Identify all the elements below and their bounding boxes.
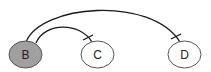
edge-b-to-c (36, 27, 92, 43)
node-b[interactable]: B (9, 41, 42, 68)
edge-b-to-d (26, 10, 180, 42)
edge-b-to-c-tick-icon (83, 35, 93, 40)
node-b-label: B (21, 48, 29, 62)
node-c-label: C (93, 48, 102, 62)
edge-b-to-d-tick-icon (171, 34, 181, 39)
node-d-label: D (180, 48, 189, 62)
diagram-canvas: B C D (0, 0, 211, 72)
node-c[interactable]: C (81, 41, 114, 68)
node-d[interactable]: D (168, 41, 201, 68)
